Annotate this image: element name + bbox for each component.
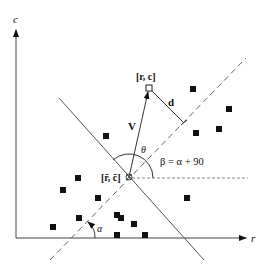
data-point [131,221,137,227]
data-point [95,195,101,201]
data-point [114,232,120,238]
point-rc [146,85,152,91]
data-point [184,195,190,201]
point-rc-label: [r, c] [136,71,156,82]
c-axis-label: c [13,13,18,25]
data-point [75,175,81,181]
data-point [50,224,56,230]
data-point [103,133,109,139]
distance-label: d [168,96,174,108]
data-points [50,86,232,238]
data-point [60,187,66,193]
data-point [226,106,232,112]
data-point [118,215,124,221]
data-point [76,215,82,221]
alpha-label: α [97,223,103,234]
line-fitting-diagram: c r [r, c] [r̄, c̄] V d θ β = α + 90 α [0,0,268,276]
v-vector [129,92,148,177]
r-axis-label: r [251,232,256,244]
centroid-label: [r̄, c̄] [101,172,121,183]
data-point [190,86,196,92]
vector-label: V [128,120,136,132]
data-point [193,130,199,136]
alpha-arc [88,222,95,238]
data-point [216,126,222,132]
theta-label: θ [141,144,146,155]
beta-equation: β = α + 90 [160,156,204,167]
data-point [142,232,148,238]
